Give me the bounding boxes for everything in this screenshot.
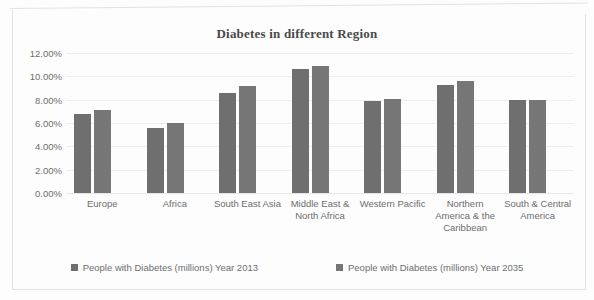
bar-group: [356, 53, 429, 193]
bar-group: [284, 53, 357, 193]
bar-group: [211, 53, 284, 193]
x-axis-category-label: Middle East & North Africa: [284, 198, 357, 222]
chart-title: Diabetes in different Region: [0, 26, 594, 42]
bar: [312, 66, 329, 193]
y-axis-tick-label: 0.00%: [14, 188, 62, 199]
bar: [239, 86, 256, 193]
bar: [457, 81, 474, 193]
bar: [437, 85, 454, 194]
page-border-top: [10, 2, 588, 9]
x-axis-category-label: Northern America & the Caribbean: [429, 198, 502, 234]
bar: [167, 123, 184, 193]
x-axis-category-label: South East Asia: [211, 198, 284, 210]
x-axis: EuropeAfricaSouth East AsiaMiddle East &…: [66, 198, 574, 256]
bar: [364, 101, 381, 193]
y-axis-tick-label: 10.00%: [14, 71, 62, 82]
bar: [74, 114, 91, 193]
legend-swatch-icon: [71, 264, 78, 271]
x-axis-category-label: Western Pacific: [356, 198, 429, 210]
chart-legend: People with Diabetes (millions) Year 201…: [0, 262, 594, 273]
bar: [94, 110, 111, 193]
x-axis-category-label: Africa: [139, 198, 212, 210]
bars-layer: [66, 53, 574, 193]
bar: [219, 93, 236, 193]
y-axis-tick-label: 8.00%: [14, 94, 62, 105]
page-border-left: [12, 10, 13, 290]
x-axis-category-label: Europe: [66, 198, 139, 210]
bar: [147, 128, 164, 193]
bar: [509, 100, 526, 193]
bar-group: [501, 53, 574, 193]
legend-swatch-icon: [336, 264, 343, 271]
x-axis-category-label: South & Central America: [501, 198, 574, 222]
page-border-right: [585, 14, 586, 290]
y-axis-tick-label: 12.00%: [14, 48, 62, 59]
bar-group: [429, 53, 502, 193]
bar: [529, 100, 546, 193]
y-axis-tick-label: 2.00%: [14, 164, 62, 175]
plot-area: [66, 53, 574, 193]
legend-item[interactable]: People with Diabetes (millions) Year 203…: [336, 262, 523, 273]
page-border-bottom: [12, 289, 586, 290]
chart-container: Diabetes in different Region 0.00%2.00%4…: [0, 0, 594, 300]
y-axis-tick-label: 6.00%: [14, 118, 62, 129]
bar-group: [66, 53, 139, 193]
bar-group: [139, 53, 212, 193]
gridline: [66, 193, 574, 194]
bar: [384, 99, 401, 194]
y-axis: 0.00%2.00%4.00%6.00%8.00%10.00%12.00%: [14, 53, 62, 193]
y-axis-tick-label: 4.00%: [14, 141, 62, 152]
legend-label: People with Diabetes (millions) Year 203…: [348, 262, 523, 273]
bar: [292, 69, 309, 193]
legend-item[interactable]: People with Diabetes (millions) Year 201…: [71, 262, 258, 273]
legend-label: People with Diabetes (millions) Year 201…: [83, 262, 258, 273]
